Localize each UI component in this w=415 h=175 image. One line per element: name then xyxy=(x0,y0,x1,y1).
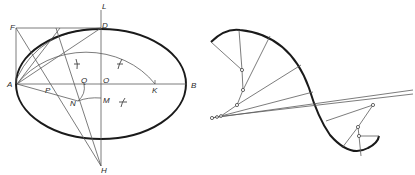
label-l: L xyxy=(102,2,106,11)
label-a: A xyxy=(6,80,12,89)
upper-end-radius xyxy=(211,42,242,70)
lower-radius-3 xyxy=(359,136,361,156)
arc-n-m xyxy=(78,98,101,101)
ellipse-construction-figure: L D F A B P Q O K N M H xyxy=(6,2,197,175)
label-q: Q xyxy=(81,76,87,85)
label-n: N xyxy=(70,99,76,108)
long-tangent-2 xyxy=(215,94,413,117)
upper-radius-3 xyxy=(237,65,301,105)
label-m: M xyxy=(103,96,110,105)
upper-radius-2 xyxy=(243,36,270,90)
label-f: F xyxy=(10,23,16,32)
label-d: D xyxy=(102,21,108,30)
label-b: B xyxy=(191,81,197,90)
spiral-curve-figure xyxy=(210,30,413,156)
center-points xyxy=(210,68,374,137)
label-o: O xyxy=(103,76,109,85)
label-k: K xyxy=(152,86,158,95)
label-p: P xyxy=(45,86,51,95)
diagram-canvas: L D F A B P Q O K N M H xyxy=(0,0,415,175)
line-f-h xyxy=(16,28,101,166)
line-a-up xyxy=(17,28,60,84)
upper-radius-1 xyxy=(239,30,242,70)
lower-radius-2 xyxy=(342,127,358,148)
label-h: H xyxy=(101,166,107,175)
lower-radius-1 xyxy=(326,105,373,121)
upper-radius-4 xyxy=(221,92,313,116)
upper-evolute-chain xyxy=(212,70,243,118)
